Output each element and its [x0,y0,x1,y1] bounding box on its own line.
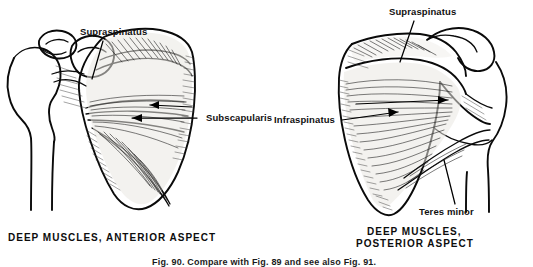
posterior-scapula-drawing [339,21,507,215]
caption-posterior-aspect-line1: DEEP MUSCLES, [367,226,462,238]
anterior-scapula-drawing [8,29,197,210]
label-infraspinatus: Infraspinatus [274,114,335,125]
label-teres-minor: Teres minor [419,206,474,217]
caption-posterior-aspect-line2: POSTERIOR ASPECT [356,238,474,250]
figure-caption: Fig. 90. Compare with Fig. 89 and see al… [152,257,376,267]
caption-anterior-aspect: DEEP MUSCLES, ANTERIOR ASPECT [8,232,216,244]
label-subscapularis: Subscapularis [206,112,272,123]
leader-teres-minor [444,160,455,204]
label-supraspinatus-posterior: Supraspinatus [389,6,456,17]
label-supraspinatus-anterior: Supraspinatus [80,26,147,37]
